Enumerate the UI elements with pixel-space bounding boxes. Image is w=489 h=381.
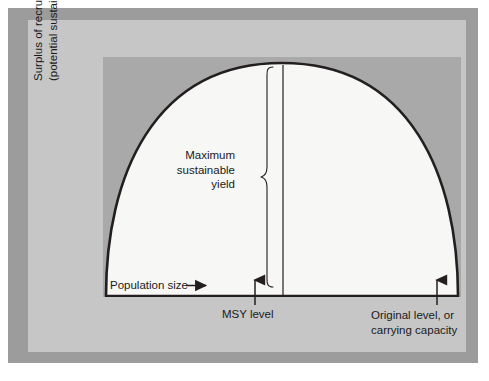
msy-label-line2: sustainable	[140, 163, 235, 178]
y-axis-label: Surplus of recruitment over loss (potent…	[31, 0, 65, 81]
carrying-capacity-line2: carrying capacity	[371, 323, 457, 338]
maximum-sustainable-yield-label: Maximum sustainable yield	[140, 148, 235, 192]
carrying-capacity-line1: Original level, or	[371, 308, 457, 323]
carrying-capacity-label: Original level, or carrying capacity	[371, 308, 457, 337]
figure-inner-panel	[28, 20, 466, 352]
y-axis-label-line1: Surplus of recruitment over loss	[31, 0, 46, 81]
msy-label-line3: yield	[140, 177, 235, 192]
y-axis-label-line2: (potential sustainable harvest)	[46, 0, 61, 81]
figure-root: Surplus of recruitment over loss (potent…	[0, 0, 489, 381]
msy-label-line1: Maximum	[140, 148, 235, 163]
msy-level-label: MSY level	[222, 308, 274, 320]
msy-brace	[261, 67, 273, 287]
population-size-label: Population size	[110, 279, 188, 291]
